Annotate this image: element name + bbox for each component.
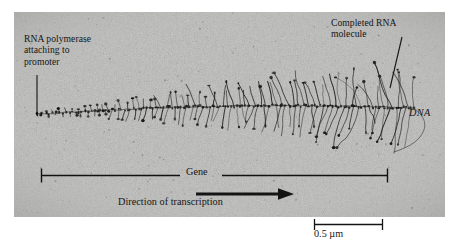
figure-electron-micrograph: RNA polymeraseattaching topromoter Compl… [0, 0, 457, 246]
label-rna-polymerase-line3: promoter [24, 56, 60, 67]
label-gene: Gene [186, 166, 208, 177]
label-direction-of-transcription: Direction of transcription [118, 196, 223, 207]
label-rna-polymerase: RNA polymeraseattaching topromoter [24, 33, 91, 67]
label-completed-rna-line1: Completed RNA [331, 17, 396, 28]
label-dna: DNA [409, 107, 431, 118]
label-rna-polymerase-line2: attaching to [24, 44, 70, 55]
label-scale-bar: 0.5 µm [314, 228, 343, 239]
label-rna-polymerase-line1: RNA polymerase [24, 33, 91, 44]
label-completed-rna-line2: molecule [331, 28, 367, 39]
label-completed-rna: Completed RNAmolecule [331, 17, 396, 40]
